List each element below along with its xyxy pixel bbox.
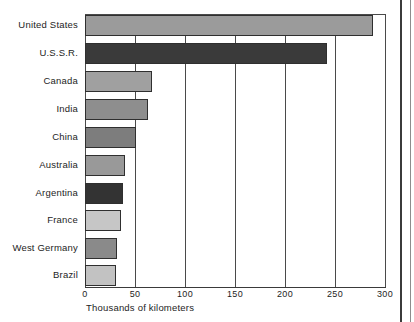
x-axis-line [85, 287, 386, 288]
page-edge-line [400, 0, 402, 322]
x-tick-label-300: 300 [377, 289, 393, 299]
x-tick-label-0: 0 [82, 289, 87, 299]
plot-area [85, 14, 385, 287]
y-axis-label-canada: Canada [0, 75, 78, 86]
x-grid-line-250 [335, 14, 336, 287]
bar-canada [85, 71, 152, 92]
x-tick-label-250: 250 [327, 289, 343, 299]
bar-west-germany [85, 238, 117, 259]
y-axis-label-india: India [0, 103, 78, 114]
bar-ussr [85, 43, 327, 64]
y-axis-label-france: France [0, 214, 78, 225]
y-axis-label-brazil: Brazil [0, 269, 78, 280]
y-axis-label-united-states: United States [0, 19, 78, 30]
y-axis-label-ussr: U.S.S.R. [0, 47, 78, 58]
y-axis-label-australia: Australia [0, 159, 78, 170]
x-axis-title: Thousands of kilometers [86, 302, 194, 313]
bar-chart-figure: United States U.S.S.R. Canada India Chin… [0, 0, 414, 322]
bar-china [85, 127, 136, 148]
bar-argentina [85, 183, 123, 204]
bar-australia [85, 155, 125, 176]
x-grid-line-300 [385, 14, 386, 287]
bar-brazil [85, 265, 116, 286]
x-tick-label-150: 150 [227, 289, 243, 299]
bar-india [85, 99, 148, 120]
x-tick-label-200: 200 [277, 289, 293, 299]
bar-united-states [85, 15, 373, 36]
x-tick-label-50: 50 [130, 289, 141, 299]
y-axis-label-china: China [0, 131, 78, 142]
bar-france [85, 210, 121, 231]
y-axis-label-west-germany: West Germany [0, 242, 78, 253]
x-tick-label-100: 100 [177, 289, 193, 299]
page-edge-line-secondary [410, 0, 411, 322]
y-axis-label-argentina: Argentina [0, 187, 78, 198]
